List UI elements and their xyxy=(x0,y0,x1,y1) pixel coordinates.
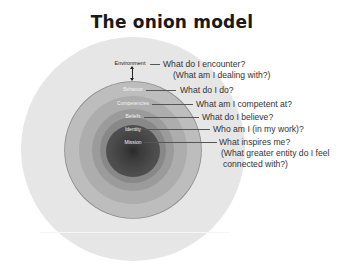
mission-leader xyxy=(144,142,217,143)
beliefs-leader xyxy=(144,117,199,118)
beliefs-label: Beliefs xyxy=(103,113,163,119)
behavior-leader xyxy=(146,90,176,91)
mission-question: What inspires me? xyxy=(219,137,290,147)
mission-sub-question-2: connected with?) xyxy=(223,159,288,169)
environment-sub-question: (What am I dealing with?) xyxy=(173,70,270,80)
behavior-label: Behavior xyxy=(103,86,163,92)
competencies-question: What am I competent at? xyxy=(196,99,292,109)
beliefs-question: What do I believe? xyxy=(202,112,273,122)
competencies-leader xyxy=(152,104,193,105)
competencies-label: Competencies xyxy=(103,100,163,106)
arrow-up-icon xyxy=(130,66,134,69)
mission-ring xyxy=(106,125,160,177)
behavior-question: What do I do? xyxy=(180,85,234,95)
divider-line xyxy=(40,232,230,233)
identity-question: Who am I (in my work)? xyxy=(213,124,304,134)
mission-sub-question: (What greater entity do I feel xyxy=(221,148,329,158)
environment-question: What do I encounter? xyxy=(163,59,245,69)
environment-leader xyxy=(150,64,160,65)
diagram-title: The onion model xyxy=(0,12,344,32)
identity-leader xyxy=(144,129,210,130)
arrow-down-icon xyxy=(130,78,134,81)
